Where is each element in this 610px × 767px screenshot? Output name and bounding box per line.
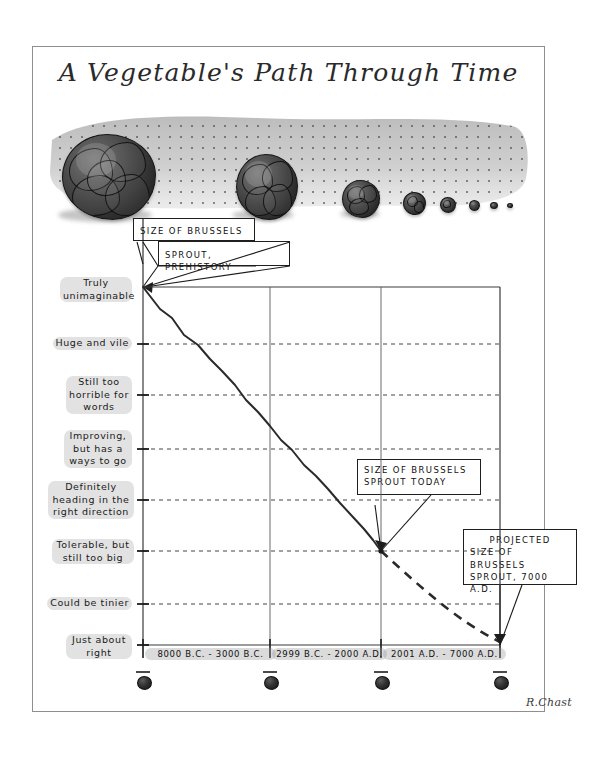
series-projected-line [381, 551, 500, 642]
plot-frame [143, 287, 500, 645]
axis-sprout-icon-4 [494, 676, 509, 690]
axis-sprout-icon-3 [375, 676, 390, 690]
series-historical-line [143, 287, 381, 551]
ytick-label-1: Just about right [32, 634, 132, 659]
ytick-label-5: Improving, but has a ways to go [32, 430, 132, 468]
horizontal-gridlines [143, 344, 500, 604]
axis-sprout-icon-1 [137, 676, 152, 690]
artist-signature: R.Chast [526, 696, 572, 709]
chart-area: Truly unimaginable Huge and vile Still t… [32, 46, 545, 712]
xtick-label-3: 2001 A.D. - 7000 A.D. [383, 648, 506, 660]
ytick-label-4: Definitely heading in the right directio… [32, 481, 134, 519]
leader-prehistory [137, 218, 290, 287]
vertical-gridlines [270, 287, 381, 645]
ytick-label-6: Still too horrible for words [32, 376, 132, 414]
ytick-label-2: Could be tinier [32, 597, 132, 610]
xtick-label-1: 8000 B.C. - 3000 B.C. [145, 648, 276, 660]
ytick-label-3: Tolerable, but still too big [32, 539, 134, 564]
xtick-label-2: 2999 B.C. - 2000 A.D. [272, 648, 387, 660]
ytick-label-7: Huge and vile [32, 337, 132, 350]
ytick-label-8: Truly unimaginable [32, 277, 132, 302]
axis-sprout-icon-2 [264, 676, 279, 690]
